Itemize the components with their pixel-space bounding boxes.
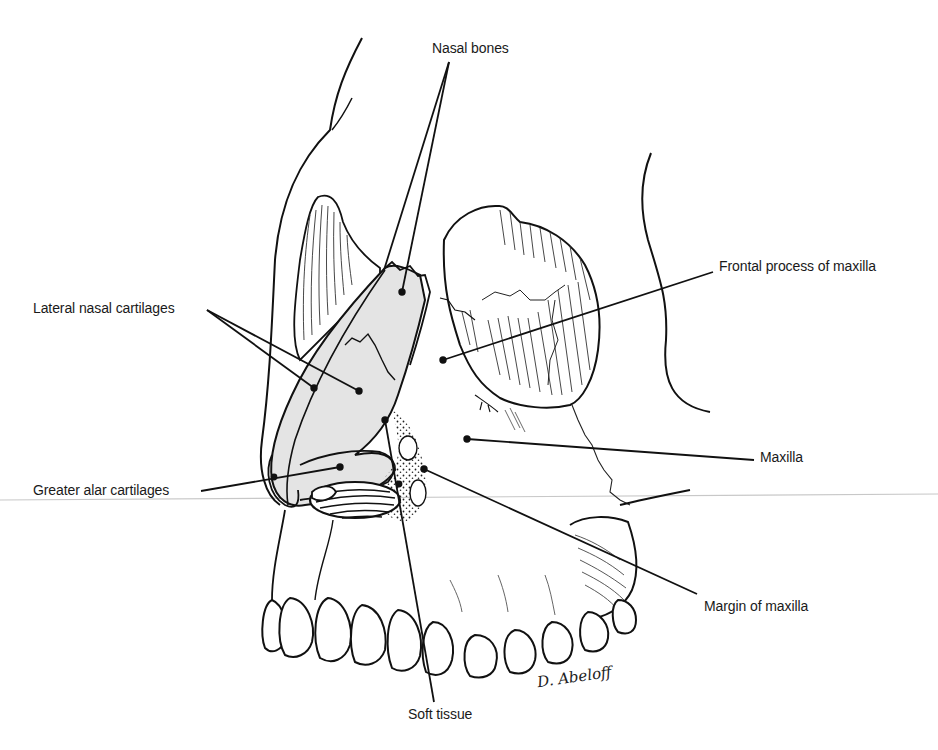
label-soft-tissue: Soft tissue [408, 706, 472, 722]
leader-lateral-cartilage-a [207, 310, 314, 388]
anatomy-figure: Nasal bones Frontal process of maxilla L… [0, 0, 938, 750]
zygomaxillary-suture [572, 405, 630, 505]
label-frontal-process-of-maxilla: Frontal process of maxilla [719, 258, 876, 274]
leader-maxilla [467, 439, 754, 460]
label-maxilla: Maxilla [760, 449, 803, 465]
label-nasal-bones: Nasal bones [432, 40, 509, 56]
label-lateral-nasal-cartilages: Lateral nasal cartilages [33, 300, 175, 316]
teeth-row [262, 598, 636, 678]
label-greater-alar-cartilages: Greater alar cartilages [33, 482, 169, 498]
temporal-outline [642, 153, 710, 412]
label-margin-of-maxilla: Margin of maxilla [704, 598, 808, 614]
leader-nasal-bones-b [402, 62, 449, 292]
skull-illustration [0, 0, 938, 750]
leader-nasal-bones-a [384, 62, 449, 270]
leader-margin-maxilla [424, 469, 697, 594]
